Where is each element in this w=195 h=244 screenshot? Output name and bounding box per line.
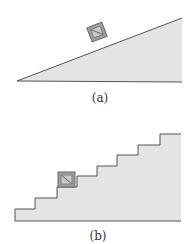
figure-canvas	[0, 0, 195, 244]
panel-a-ramp	[17, 18, 182, 82]
block-icon	[58, 172, 75, 187]
panel-b-label: (b)	[78, 229, 118, 243]
block-icon	[87, 22, 107, 42]
panel-b-stairs	[15, 134, 181, 221]
staircase	[15, 134, 181, 221]
panel-a-label: (a)	[80, 91, 120, 105]
